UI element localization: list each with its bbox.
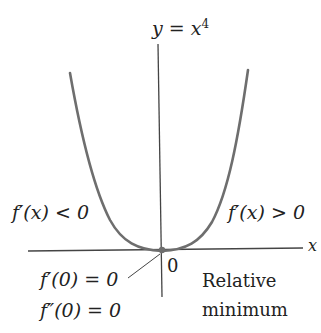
origin-label: 0 (167, 257, 178, 275)
second-derivative-label: f″(0) = 0 (40, 301, 121, 320)
function-title: y = x4 (152, 18, 209, 38)
relative-minimum-label-line1: Relative (202, 272, 277, 290)
y-axis (158, 44, 162, 297)
origin-point (159, 247, 165, 253)
increasing-label: f′(x) > 0 (228, 203, 305, 222)
x-axis-label: x (308, 238, 317, 254)
leader-line (128, 254, 160, 278)
first-derivative-label: f′(0) = 0 (40, 270, 118, 289)
decreasing-label: f′(x) < 0 (12, 203, 89, 222)
graph-of-x-to-the-fourth: y = x4 x 0 f′(x) < 0 f′(x) > 0 f′(0) = 0… (0, 0, 321, 333)
relative-minimum-label-line2: minimum (202, 301, 288, 319)
